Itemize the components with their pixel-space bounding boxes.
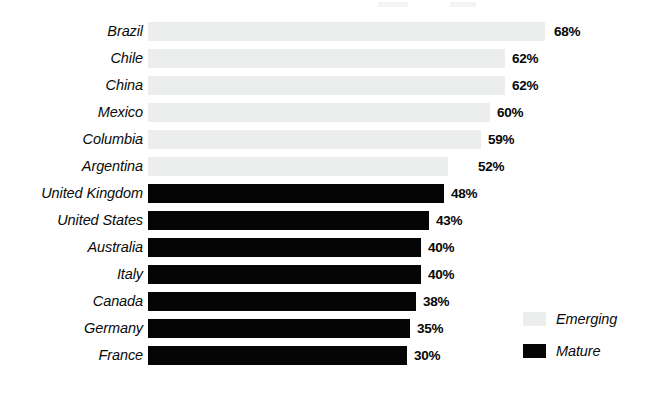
bar-value-label: 40% [428, 238, 454, 257]
bar-value-label: 60% [497, 103, 523, 122]
category-label: Columbia [0, 130, 143, 149]
bar-track: 48% [148, 184, 651, 203]
bar-track: 43% [148, 211, 651, 230]
bar-track: 52% [148, 157, 651, 176]
bar-track: 40% [148, 238, 651, 257]
legend-label: Mature [556, 342, 601, 361]
bar-value-label: 59% [488, 130, 514, 149]
bar-emerging [148, 103, 490, 122]
category-label: China [0, 76, 143, 95]
chart-row: France30% [0, 346, 651, 365]
legend-swatch-icon [523, 312, 546, 326]
bar-emerging [148, 22, 545, 41]
category-label: Italy [0, 265, 143, 284]
bar-emerging [148, 76, 505, 95]
bar-track: 68% [148, 22, 651, 41]
chart-row: Italy40% [0, 265, 651, 284]
chart-row: Argentina52% [0, 157, 651, 176]
bar-track: 62% [148, 49, 651, 68]
bar-value-label: 62% [512, 76, 538, 95]
chart-rows: Brazil68%Chile62%China62%Mexico60%Columb… [0, 22, 651, 373]
bar-mature [148, 346, 407, 365]
chart-row: Canada38% [0, 292, 651, 311]
bar-value-label: 40% [428, 265, 454, 284]
category-label: Argentina [0, 157, 143, 176]
scan-artifact [378, 2, 408, 7]
bar-track: 60% [148, 103, 651, 122]
bar-mature [148, 238, 421, 257]
chart-row: Brazil68% [0, 22, 651, 41]
bar-emerging [148, 49, 505, 68]
bar-value-label: 52% [478, 157, 504, 176]
category-label: Canada [0, 292, 143, 311]
category-label: France [0, 346, 143, 365]
category-label: Brazil [0, 22, 143, 41]
bar-value-label: 62% [512, 49, 538, 68]
scan-artifact [450, 2, 476, 7]
legend-swatch-icon [523, 344, 546, 358]
bar-value-label: 35% [417, 319, 443, 338]
bar-mature [148, 184, 444, 203]
chart-row: United States43% [0, 211, 651, 230]
chart-row: Australia40% [0, 238, 651, 257]
bar-track: 40% [148, 265, 651, 284]
category-label: Mexico [0, 103, 143, 122]
bar-mature [148, 319, 410, 338]
chart-row: Columbia59% [0, 130, 651, 149]
category-label: Germany [0, 319, 143, 338]
bar-value-label: 48% [451, 184, 477, 203]
bar-mature [148, 265, 421, 284]
chart-row: United Kingdom48% [0, 184, 651, 203]
category-label: United States [0, 211, 143, 230]
category-label: United Kingdom [0, 184, 143, 203]
bar-track: 62% [148, 76, 651, 95]
horizontal-bar-chart: Brazil68%Chile62%China62%Mexico60%Columb… [0, 0, 651, 407]
chart-row: Mexico60% [0, 103, 651, 122]
bar-value-label: 68% [554, 22, 580, 41]
category-label: Australia [0, 238, 143, 257]
bar-value-label: 43% [436, 211, 462, 230]
bar-track: 38% [148, 292, 651, 311]
chart-row: Germany35% [0, 319, 651, 338]
bar-value-label: 30% [414, 346, 440, 365]
bar-value-label: 38% [423, 292, 449, 311]
legend-label: Emerging [556, 310, 617, 329]
bar-track: 59% [148, 130, 651, 149]
category-label: Chile [0, 49, 143, 68]
bar-emerging [148, 130, 481, 149]
chart-row: Chile62% [0, 49, 651, 68]
bar-mature [148, 211, 429, 230]
bar-emerging [148, 157, 448, 176]
chart-row: China62% [0, 76, 651, 95]
bar-mature [148, 292, 416, 311]
